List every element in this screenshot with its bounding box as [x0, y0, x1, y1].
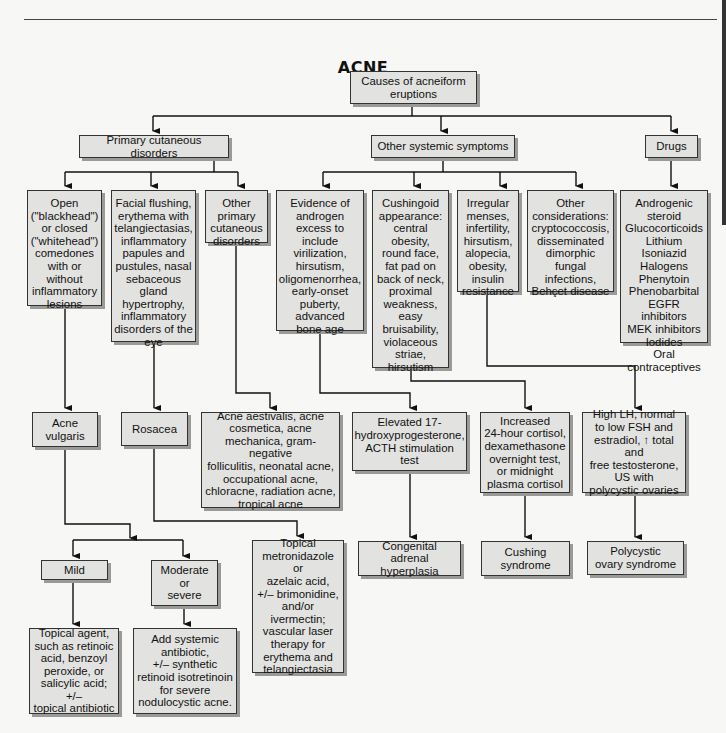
node-elevated-17-ohp: Elevated 17- hydroxyprogesterone, ACTH s… — [352, 412, 467, 471]
node-primary-cutaneous-disorders: Primary cutaneous disorders — [79, 135, 229, 158]
node-androgen-excess: Evidence of androgen excess to include v… — [276, 190, 364, 331]
node-comedones: Open ("blackhead") or closed ("whitehead… — [27, 190, 102, 306]
node-mild-treatment: Topical agent, such as retinoic acid, be… — [29, 628, 119, 714]
node-irregular-menses: Irregular menses, infertility, hirsutism… — [457, 190, 519, 292]
node-other-primary-cutaneous: Other primary cutaneous disorders — [205, 190, 268, 243]
node-mild: Mild — [41, 560, 108, 580]
node-rosacea-treatment: Topical metronidazole or azelaic acid, +… — [252, 540, 344, 673]
node-moderate-treatment: Add systemic antibiotic, +/– synthetic r… — [133, 628, 237, 714]
node-congenital-adrenal-hyperplasia: Congenital adrenal hyperplasia — [358, 541, 461, 576]
node-increased-cortisol: Increased 24-hour cortisol, dexamethason… — [480, 412, 570, 493]
node-other-considerations: Other considerations: cryptococcosis, di… — [527, 190, 614, 292]
node-high-lh: High LH, normal to low FSH and estradiol… — [582, 412, 686, 493]
node-rosacea: Rosacea — [121, 412, 188, 446]
node-moderate-or-severe: Moderate or severe — [151, 560, 218, 606]
node-cushing-syndrome: Cushing syndrome — [481, 541, 570, 576]
node-facial-flushing: Facial flushing, erythema with telangiec… — [111, 190, 196, 342]
node-causes-of-acneiform-eruptions: Causes of acneiform eruptions — [350, 71, 477, 104]
node-acne-vulgaris: Acne vulgaris — [32, 412, 98, 447]
node-drugs: Drugs — [645, 135, 698, 158]
node-drug-list: Androgenic steroid Glucocorticoids Lithi… — [620, 190, 708, 343]
node-acne-variants: Acne aestivalis, acne cosmetica, acne me… — [201, 412, 340, 508]
node-polycystic-ovary-syndrome: Polycystic ovary syndrome — [587, 541, 684, 575]
node-other-systemic-symptoms: Other systemic symptoms — [371, 135, 515, 158]
node-cushingoid-appearance: Cushingoid appearance: central obesity, … — [372, 190, 449, 368]
connector-lines — [0, 0, 726, 733]
